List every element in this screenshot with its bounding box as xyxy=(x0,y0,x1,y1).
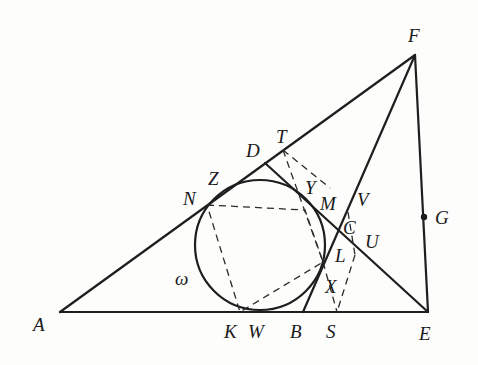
label-U: U xyxy=(365,231,380,252)
label-E: E xyxy=(418,323,431,344)
circle-omega xyxy=(195,180,325,310)
label-N: N xyxy=(182,188,197,209)
geometry-figure: F T D Z N Y M V C G U L X ω A K W B S E xyxy=(0,0,478,365)
segment-FE xyxy=(415,55,428,312)
label-A: A xyxy=(31,314,45,335)
label-C: C xyxy=(343,217,356,238)
label-L: L xyxy=(334,245,346,266)
dashed-quad-NYLK xyxy=(207,205,323,312)
label-X: X xyxy=(324,276,338,297)
label-V: V xyxy=(357,189,371,210)
segment-BF xyxy=(303,55,415,312)
label-Y: Y xyxy=(305,177,318,198)
label-M: M xyxy=(319,193,337,214)
label-G: G xyxy=(435,207,449,228)
label-omega: ω xyxy=(175,268,188,289)
label-Z: Z xyxy=(208,168,219,189)
label-S: S xyxy=(326,321,336,342)
label-W: W xyxy=(248,321,266,342)
label-D: D xyxy=(245,140,260,161)
diagram-canvas: F T D Z N Y M V C G U L X ω A K W B S E xyxy=(0,0,478,365)
point-G-dot xyxy=(421,214,427,220)
label-K: K xyxy=(223,321,238,342)
label-T: T xyxy=(276,126,288,147)
label-F: F xyxy=(407,25,420,46)
label-B: B xyxy=(290,321,302,342)
